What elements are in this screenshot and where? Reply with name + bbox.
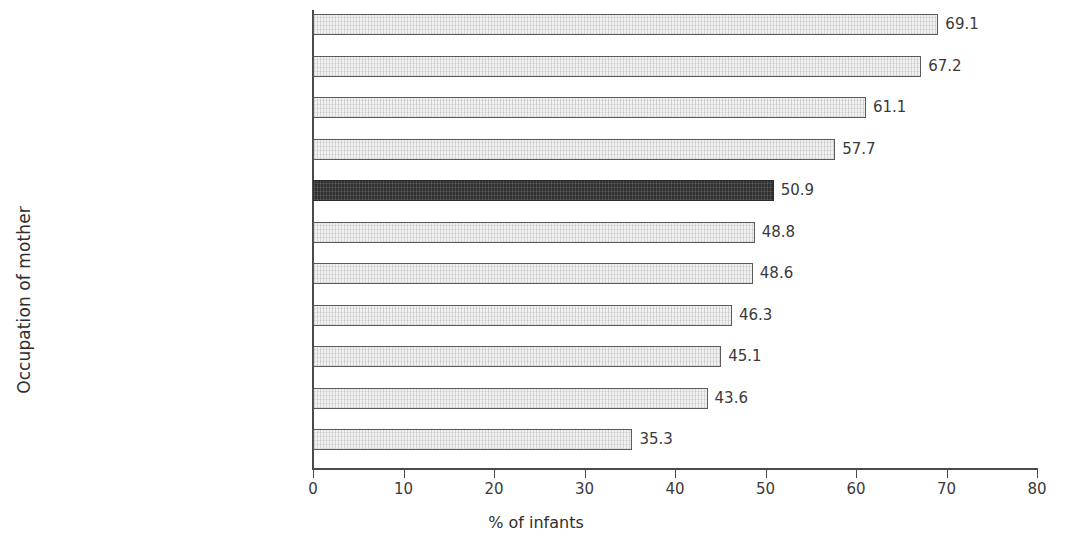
bar-value-label: 43.6	[715, 388, 748, 409]
bar	[313, 139, 835, 160]
bar-chart: Occupation of mother 01020304050607080 H…	[0, 0, 1072, 540]
x-axis-tick-label: 30	[575, 480, 594, 498]
bar-value-label: 61.1	[873, 97, 906, 118]
bar	[313, 305, 732, 326]
x-axis-tick	[1037, 470, 1038, 478]
x-axis-tick	[313, 470, 314, 478]
bar	[313, 346, 721, 367]
x-axis-tick	[404, 470, 405, 478]
x-axis-tick	[856, 470, 857, 478]
x-axis-tick-label: 80	[1027, 480, 1046, 498]
bar-value-label: 45.1	[728, 346, 761, 367]
bar-value-label: 35.3	[639, 429, 672, 450]
bar-highlighted	[313, 180, 774, 201]
x-axis-tick	[675, 470, 676, 478]
bar	[313, 222, 755, 243]
x-axis-tick-label: 70	[937, 480, 956, 498]
bar-value-label: 50.9	[781, 180, 814, 201]
bar-value-label: 57.7	[842, 139, 875, 160]
bar	[313, 429, 632, 450]
bar-value-label: 48.8	[762, 222, 795, 243]
x-axis-tick-label: 20	[484, 480, 503, 498]
bar	[313, 14, 938, 35]
x-axis-title: % of infants	[0, 513, 1072, 532]
x-axis-tick-label: 50	[756, 480, 775, 498]
bar	[313, 56, 921, 77]
bar	[313, 97, 866, 118]
x-axis-tick-label: 60	[846, 480, 865, 498]
x-axis-tick	[766, 470, 767, 478]
x-axis-tick	[494, 470, 495, 478]
bar-value-label: 46.3	[739, 305, 772, 326]
bar	[313, 388, 708, 409]
x-axis-tick	[947, 470, 948, 478]
bar	[313, 263, 753, 284]
bar-value-label: 48.6	[760, 263, 793, 284]
x-axis-tick-label: 10	[394, 480, 413, 498]
x-axis-tick-label: 40	[665, 480, 684, 498]
plot-area: 01020304050607080 Higher Professional69.…	[0, 0, 1072, 540]
bar-value-label: 69.1	[945, 14, 978, 35]
bar-value-label: 67.2	[928, 56, 961, 77]
x-axis-tick-label: 0	[308, 480, 318, 498]
x-axis-tick	[585, 470, 586, 478]
